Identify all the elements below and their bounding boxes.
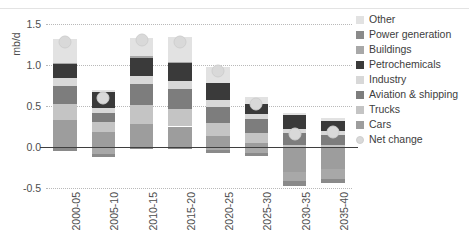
legend-item: Cars <box>356 117 468 132</box>
net-change-marker <box>288 127 301 140</box>
bar-segment <box>321 118 345 120</box>
bar-group <box>206 24 230 188</box>
bar-segment <box>321 147 345 169</box>
bar-segment <box>53 104 77 120</box>
bar-segment <box>130 58 154 76</box>
bar-segment <box>245 133 269 143</box>
bar-segment <box>53 64 77 78</box>
bar-segment <box>283 181 307 186</box>
legend-swatch-aviation-shipping-icon <box>356 91 364 99</box>
bar-segment <box>53 78 77 86</box>
bar-segment <box>130 84 154 105</box>
bar-segment <box>283 113 307 115</box>
bar-segment <box>168 81 192 88</box>
net-change-marker <box>250 97 263 110</box>
bar-segment <box>206 83 230 100</box>
chart-figure: mb/d 1.51.00.50.0-0.52000-052005-102010-… <box>0 0 469 234</box>
y-axis-label: mb/d <box>10 24 22 64</box>
legend-item-label: Buildings <box>369 44 412 55</box>
net-change-marker <box>97 91 110 104</box>
bar-segment <box>53 120 77 147</box>
legend-swatch-cars-icon <box>356 121 364 129</box>
zero-axis-line <box>40 147 358 148</box>
bar-segment <box>206 100 230 107</box>
bar-segment <box>130 56 154 58</box>
bar-group <box>321 24 345 188</box>
top-divider <box>0 8 469 9</box>
x-axis-tick-label: 2020-25 <box>223 192 235 231</box>
bar-segment <box>206 123 230 136</box>
legend-item: Industry <box>356 72 468 87</box>
bar-segment <box>168 109 192 126</box>
bar-group <box>168 24 192 188</box>
bar-segment <box>92 132 116 147</box>
legend-item-label: Cars <box>369 119 391 130</box>
legend-item-label: Power generation <box>369 29 451 40</box>
legend-item-label: Trucks <box>369 104 400 115</box>
net-change-marker <box>135 34 148 47</box>
legend-marker-net-change-icon <box>356 136 364 144</box>
legend-swatch-industry-icon <box>356 76 364 84</box>
legend-swatch-power-generation-icon <box>356 31 364 39</box>
legend-swatch-other-icon <box>356 16 364 24</box>
legend-item-label: Industry <box>369 74 406 85</box>
bar-segment <box>168 62 192 64</box>
legend-item: Power generation <box>356 27 468 42</box>
bar-segment <box>53 86 77 103</box>
x-axis-tick-label: 2000-05 <box>70 192 82 231</box>
bar-segment <box>283 147 307 172</box>
plot-area: 1.51.00.50.0-0.52000-052005-102010-15201… <box>46 24 352 188</box>
bar-segment <box>130 124 154 147</box>
bar-segment <box>168 127 192 148</box>
legend-swatch-buildings-icon <box>356 46 364 54</box>
chart-legend: OtherPower generationBuildingsPetrochemi… <box>356 12 468 147</box>
legend-item-label: Other <box>369 14 395 25</box>
x-axis-tick-label: 2025-30 <box>261 192 273 231</box>
x-axis-tick-label: 2015-20 <box>185 192 197 231</box>
net-change-marker <box>173 36 186 49</box>
legend-item: Buildings <box>356 42 468 57</box>
legend-swatch-trucks-icon <box>356 106 364 114</box>
y-axis-label-container: mb/d <box>6 24 20 64</box>
legend-item: Trucks <box>356 102 468 117</box>
bar-segment <box>168 63 192 81</box>
net-change-marker <box>326 126 339 139</box>
y-axis-tick-label: 1.0 <box>11 59 41 71</box>
bar-segment <box>321 169 345 179</box>
bar-group <box>53 24 77 188</box>
legend-item: Petrochemicals <box>356 57 468 72</box>
y-axis-tick-label: 0.5 <box>11 100 41 112</box>
bar-group <box>130 24 154 188</box>
x-axis-tick-label: 2035-40 <box>338 192 350 231</box>
bar-segment <box>92 154 116 157</box>
bar-segment <box>92 108 116 114</box>
bar-group <box>283 24 307 188</box>
legend-item-label: Aviation & shipping <box>369 89 458 100</box>
legend-item: Aviation & shipping <box>356 87 468 102</box>
legend-swatch-petrochemicals-icon <box>356 61 364 69</box>
bar-segment <box>245 114 269 119</box>
legend-item-label: Petrochemicals <box>369 59 441 70</box>
bar-segment <box>130 76 154 84</box>
legend-item: Net change <box>356 132 468 147</box>
bar-segment <box>245 153 269 156</box>
gridline <box>46 188 352 189</box>
bar-segment <box>321 179 345 183</box>
bar-segment <box>245 119 269 133</box>
x-axis-tick-label: 2010-15 <box>147 192 159 231</box>
bar-segment <box>206 150 230 152</box>
bar-segment <box>130 105 154 124</box>
bar-segment <box>92 122 116 133</box>
y-axis-tick-label: 0.0 <box>11 141 41 153</box>
x-axis-tick-label: 2030-35 <box>300 192 312 231</box>
bar-segment <box>168 89 192 110</box>
bar-segment <box>53 63 77 65</box>
net-change-marker <box>59 36 72 49</box>
legend-item-label: Net change <box>369 134 423 145</box>
bar-segment <box>92 113 116 121</box>
y-axis-tick-label: -0.5 <box>11 182 41 194</box>
bar-segment <box>283 172 307 182</box>
y-axis-tick-label: 1.5 <box>11 18 41 30</box>
net-change-marker <box>212 64 225 77</box>
bar-group <box>92 24 116 188</box>
